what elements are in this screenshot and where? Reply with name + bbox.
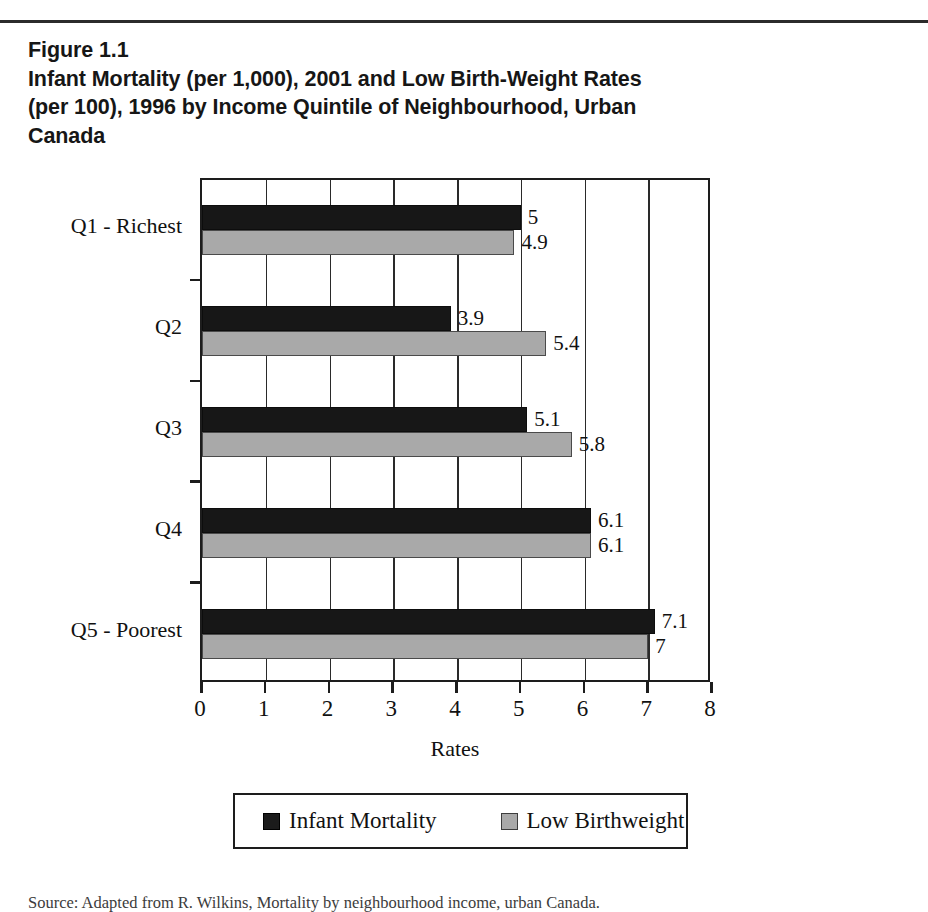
legend-label-infant-mortality: Infant Mortality	[289, 808, 437, 834]
bar-value-label-low-birthweight: 5.4	[553, 331, 579, 356]
bar-value-label-infant-mortality: 5.1	[534, 407, 560, 432]
x-axis-tick-label: 1	[244, 696, 284, 722]
bar-row: 5.15.8	[202, 382, 708, 483]
bar-value-label-low-birthweight: 4.9	[521, 230, 547, 255]
y-axis-tick	[190, 581, 200, 584]
y-axis-category-label: Q4	[0, 516, 182, 542]
page-top-rule	[0, 20, 928, 23]
legend-item-infant-mortality[interactable]: Infant Mortality	[263, 808, 437, 834]
y-axis-tick	[190, 480, 200, 483]
bar-value-label-infant-mortality: 7.1	[662, 609, 688, 634]
bar-value-label-infant-mortality: 3.9	[458, 306, 484, 331]
x-axis-title: Rates	[200, 736, 710, 762]
bar-infant-mortality[interactable]	[202, 609, 655, 634]
bar-low-birthweight[interactable]	[202, 230, 514, 255]
figure-title: Infant Mortality (per 1,000), 2001 and L…	[28, 65, 668, 151]
bar-rows-group: 54.93.95.45.15.86.16.17.17	[202, 180, 708, 680]
y-axis-tick	[190, 279, 200, 282]
x-axis-tick-label: 5	[499, 696, 539, 722]
figure-number: Figure 1.1	[28, 36, 668, 65]
bar-value-label-low-birthweight: 7	[655, 634, 666, 659]
bar-row: 3.95.4	[202, 281, 708, 382]
x-axis-tick	[200, 682, 203, 693]
bar-row: 7.17	[202, 583, 708, 684]
bar-value-label-low-birthweight: 6.1	[598, 533, 624, 558]
x-axis-tick	[583, 682, 586, 693]
x-axis-tick	[264, 682, 267, 693]
x-axis-tick-label: 7	[626, 696, 666, 722]
x-axis-tick-label: 6	[563, 696, 603, 722]
y-axis-category-label: Q2	[0, 314, 182, 340]
x-axis-tick	[391, 682, 394, 693]
x-axis-tick-label: 3	[371, 696, 411, 722]
chart-container: 54.93.95.45.15.86.16.17.17 Q1 - RichestQ…	[0, 150, 928, 850]
x-axis-tick	[519, 682, 522, 693]
bar-value-label-infant-mortality: 6.1	[598, 508, 624, 533]
x-axis-tick-label: 4	[435, 696, 475, 722]
y-axis-tick	[190, 380, 200, 383]
source-note: Source: Adapted from R. Wilkins, Mortali…	[28, 893, 908, 912]
plot-area: 54.93.95.45.15.86.16.17.17	[200, 178, 710, 682]
y-axis-category-label: Q1 - Richest	[0, 213, 182, 239]
legend-item-low-birthweight[interactable]: Low Birthweight	[501, 808, 685, 834]
y-axis-category-label: Q3	[0, 415, 182, 441]
x-axis-tick	[455, 682, 458, 693]
x-axis-tick-label: 0	[180, 696, 220, 722]
x-axis-tick	[710, 682, 713, 693]
bar-low-birthweight[interactable]	[202, 533, 591, 558]
chart-legend: Infant Mortality Low Birthweight	[233, 793, 688, 849]
legend-swatch-icon-low-birthweight	[501, 813, 518, 830]
bar-row: 6.16.1	[202, 482, 708, 583]
bar-low-birthweight[interactable]	[202, 432, 572, 457]
figure-title-block: Figure 1.1 Infant Mortality (per 1,000),…	[28, 36, 668, 150]
bar-value-label-infant-mortality: 5	[528, 205, 539, 230]
figure-page: Figure 1.1 Infant Mortality (per 1,000),…	[0, 0, 928, 912]
x-axis-tick	[328, 682, 331, 693]
x-axis-tick	[646, 682, 649, 693]
bar-infant-mortality[interactable]	[202, 407, 527, 432]
bar-infant-mortality[interactable]	[202, 306, 451, 331]
x-axis-tick-label: 2	[308, 696, 348, 722]
y-axis-category-label: Q5 - Poorest	[0, 617, 182, 643]
legend-swatch-icon-infant-mortality	[263, 813, 280, 830]
bar-low-birthweight[interactable]	[202, 331, 546, 356]
bar-row: 54.9	[202, 180, 708, 281]
bar-infant-mortality[interactable]	[202, 508, 591, 533]
x-axis-tick-label: 8	[690, 696, 730, 722]
bar-value-label-low-birthweight: 5.8	[579, 432, 605, 457]
legend-label-low-birthweight: Low Birthweight	[527, 808, 685, 834]
bar-low-birthweight[interactable]	[202, 634, 648, 659]
bar-infant-mortality[interactable]	[202, 205, 521, 230]
